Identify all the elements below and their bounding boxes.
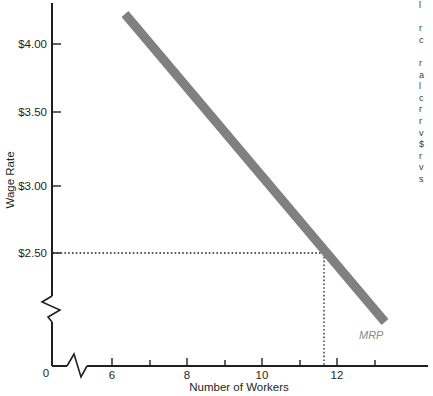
mrp-series-label: MRP [359, 329, 384, 341]
edge-fragment: v [419, 162, 433, 174]
edge-fragment [419, 46, 433, 58]
x-axis-break-mark [67, 354, 87, 377]
y-axis-break-mark [42, 296, 60, 322]
y-tick-label-4.00: $4.00 [18, 38, 47, 50]
y-tick-label-2.50: $2.50 [18, 247, 47, 259]
edge-fragment [419, 12, 433, 24]
edge-fragment: l [419, 0, 433, 12]
edge-fragment: s [419, 174, 433, 186]
edge-fragment: c [419, 35, 433, 47]
edge-fragment: v [419, 128, 433, 140]
y-tick-label-3.00: $3.00 [18, 180, 47, 192]
page-edge-text-sliver: l r c r a l c r r v $ r v s [419, 0, 433, 396]
edge-fragment: c [419, 93, 433, 105]
y-axis-title: Wage Rate [4, 151, 16, 208]
chart-plot-area: $4.00 $3.50 $3.00 $2.50 0 6 8 10 12 Numb… [0, 0, 433, 396]
edge-fragment: a [419, 70, 433, 82]
x-tick-label-8: 8 [184, 369, 190, 381]
y-tick-label-3.50: $3.50 [18, 106, 47, 118]
edge-fragment: r [419, 104, 433, 116]
x-tick-label-6: 6 [109, 369, 115, 381]
marginal-revenue-product-chart: $4.00 $3.50 $3.00 $2.50 0 6 8 10 12 Numb… [0, 0, 433, 396]
mrp-curve [125, 14, 385, 322]
edge-fragment: l [419, 81, 433, 93]
origin-label: 0 [43, 367, 49, 379]
edge-fragment: r [419, 23, 433, 35]
x-tick-label-10: 10 [256, 369, 269, 381]
edge-fragment: $ [419, 139, 433, 151]
x-axis-title: Number of Workers [189, 381, 289, 393]
x-tick-label-12: 12 [331, 369, 344, 381]
edge-fragment: r [419, 116, 433, 128]
edge-fragment: r [419, 151, 433, 163]
edge-fragment: r [419, 58, 433, 70]
